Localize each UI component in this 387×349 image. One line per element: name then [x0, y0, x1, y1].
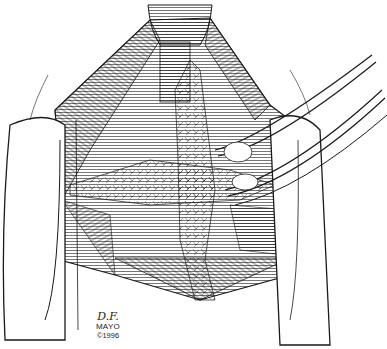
signature-year: ©1996	[88, 332, 128, 340]
artist-signature: D.F. MAYO ©1996	[88, 311, 128, 340]
signature-name: MAYO	[88, 323, 128, 331]
right-retractor	[270, 116, 330, 345]
wound-field	[55, 5, 300, 300]
surgical-illustration	[0, 0, 387, 349]
signature-initials: D.F.	[88, 311, 128, 322]
